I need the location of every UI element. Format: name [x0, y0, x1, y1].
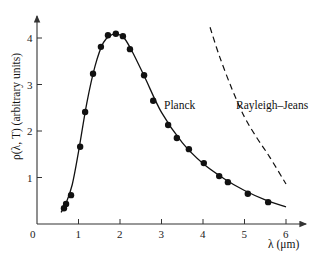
rayleigh-jeans-label: Rayleigh–Jeans — [236, 99, 309, 112]
data-point — [113, 31, 119, 37]
data-point — [201, 160, 207, 166]
planck-chart: 0123456 1234 Planck Rayleigh–Jeans λ (μm… — [0, 0, 322, 258]
data-point — [265, 199, 271, 205]
data-point — [127, 46, 133, 52]
data-point — [225, 179, 231, 185]
x-tick-label: 1 — [76, 228, 82, 240]
data-point — [68, 192, 74, 198]
data-point — [186, 146, 192, 152]
y-tick-label: 2 — [27, 125, 33, 137]
y-ticks: 1234 — [27, 32, 42, 184]
x-axis-label: λ (μm) — [268, 238, 299, 251]
y-axis-label: ρ(λ, T) (arbitrary units) — [10, 53, 23, 160]
x-tick-label: 4 — [200, 228, 206, 240]
y-tick-label: 1 — [27, 172, 33, 184]
data-point — [245, 191, 251, 197]
data-point — [216, 173, 222, 179]
data-point — [141, 72, 147, 78]
y-tick-label: 4 — [27, 32, 33, 44]
data-point — [90, 71, 96, 77]
data-point — [150, 98, 156, 104]
data-point — [174, 135, 180, 141]
x-tick-label: 5 — [242, 228, 248, 240]
y-tick-label: 3 — [27, 79, 33, 91]
x-tick-label: 3 — [159, 228, 165, 240]
data-point — [98, 44, 104, 50]
data-point — [165, 122, 171, 128]
data-point — [77, 144, 83, 150]
axes — [37, 16, 306, 224]
x-tick-label: 0 — [30, 228, 36, 240]
data-point — [105, 32, 111, 38]
planck-curve — [61, 34, 286, 213]
x-ticks: 0123456 — [30, 219, 289, 240]
x-tick-label: 2 — [117, 228, 123, 240]
data-point — [63, 201, 69, 207]
data-point — [120, 33, 126, 39]
planck-label: Planck — [164, 99, 196, 111]
data-point — [82, 109, 88, 115]
